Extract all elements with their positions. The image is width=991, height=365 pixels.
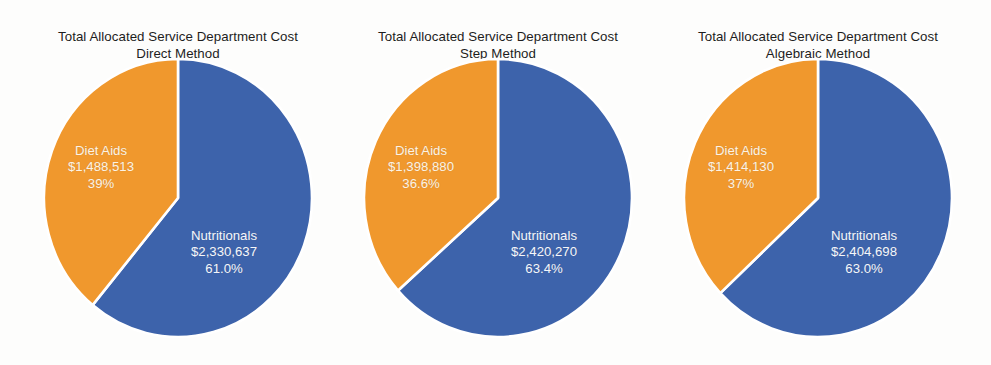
slice-label-name: Diet Aids [388, 143, 454, 159]
slice-label-percent: 39% [68, 176, 134, 192]
slice-label-value: $1,398,880 [388, 159, 454, 175]
chart-panel-step-method: Total Allocated Service Department Cost … [333, 0, 663, 365]
slice-label-percent: 63.0% [831, 261, 897, 277]
slice-label-nutritionals: Nutritionals$2,420,27063.4% [511, 228, 577, 277]
slice-label-percent: 61.0% [191, 261, 257, 277]
slice-label-value: $2,330,637 [191, 244, 257, 260]
slice-label-diet-aids: Diet Aids$1,414,13037% [708, 143, 774, 192]
slice-label-name: Nutritionals [511, 228, 577, 244]
slice-label-diet-aids: Diet Aids$1,398,88036.6% [388, 143, 454, 192]
slice-label-value: $2,420,270 [511, 244, 577, 260]
slice-label-name: Diet Aids [68, 143, 134, 159]
pie-svg [13, 0, 343, 365]
chart-panel-direct-method: Total Allocated Service Department Cost … [13, 0, 343, 365]
slice-label-percent: 36.6% [388, 176, 454, 192]
pie-chart-algebraic-method: Nutritionals$2,404,69863.0%Diet Aids$1,4… [653, 0, 983, 365]
slice-label-name: Diet Aids [708, 143, 774, 159]
slice-label-diet-aids: Diet Aids$1,488,51339% [68, 143, 134, 192]
pie-chart-direct-method: Nutritionals$2,330,63761.0%Diet Aids$1,4… [13, 0, 343, 365]
pie-svg [653, 0, 983, 365]
slice-label-nutritionals: Nutritionals$2,404,69863.0% [831, 228, 897, 277]
slice-label-percent: 63.4% [511, 261, 577, 277]
pie-svg [333, 0, 663, 365]
charts-board: Total Allocated Service Department Cost … [0, 0, 991, 365]
pie-chart-step-method: Nutritionals$2,420,27063.4%Diet Aids$1,3… [333, 0, 663, 365]
slice-label-value: $2,404,698 [831, 244, 897, 260]
slice-label-name: Nutritionals [831, 228, 897, 244]
slice-label-name: Nutritionals [191, 228, 257, 244]
chart-panel-algebraic-method: Total Allocated Service Department Cost … [653, 0, 983, 365]
slice-label-percent: 37% [708, 176, 774, 192]
slice-label-nutritionals: Nutritionals$2,330,63761.0% [191, 228, 257, 277]
slice-label-value: $1,488,513 [68, 159, 134, 175]
slice-label-value: $1,414,130 [708, 159, 774, 175]
